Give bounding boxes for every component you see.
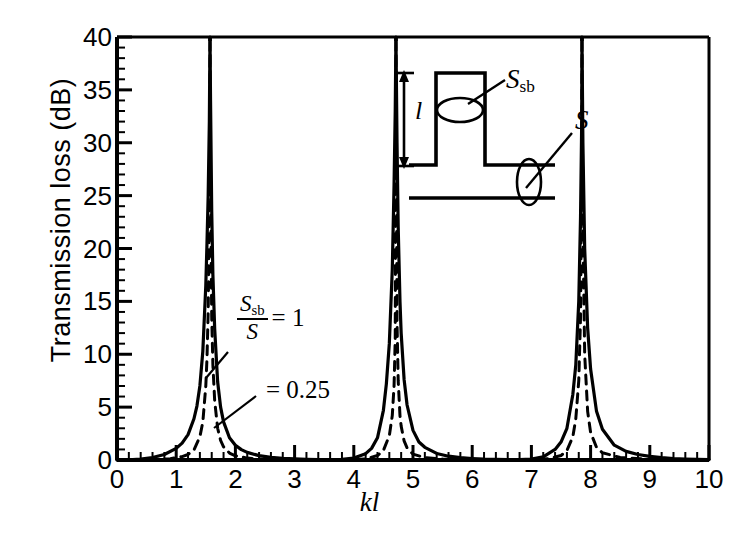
annotation-ratio-1: Ssb S = 1 — [237, 292, 304, 344]
inset-label-side-branch-area-subscript: sb — [520, 77, 535, 96]
inset-label-side-branch-area: Ssb — [506, 64, 535, 97]
data-curves — [117, 37, 709, 460]
ratio-numerator: Ssb — [237, 292, 268, 320]
chart-figure: 0510152025303540 012345678910 Transmissi… — [0, 0, 739, 542]
inset-label-length: l — [415, 96, 422, 126]
y-axis-title: Transmission loss (dB) — [46, 60, 86, 380]
ratio-value-2: = 0.25 — [262, 376, 330, 404]
ratio-numerator-subscript: sb — [252, 302, 265, 318]
y-tick-label: 40 — [68, 24, 112, 50]
x-axis-title: kl — [0, 487, 739, 518]
y-tick-label: 5 — [68, 394, 112, 420]
ratio-denominator: S — [237, 320, 268, 344]
inset-schematic — [396, 70, 572, 205]
ratio-value-1: = 1 — [268, 304, 305, 332]
annotation-ratio-2: = 0.25 — [262, 374, 330, 404]
inset-label-duct-area: S — [575, 105, 589, 136]
ratio-fraction: Ssb S — [237, 292, 268, 344]
